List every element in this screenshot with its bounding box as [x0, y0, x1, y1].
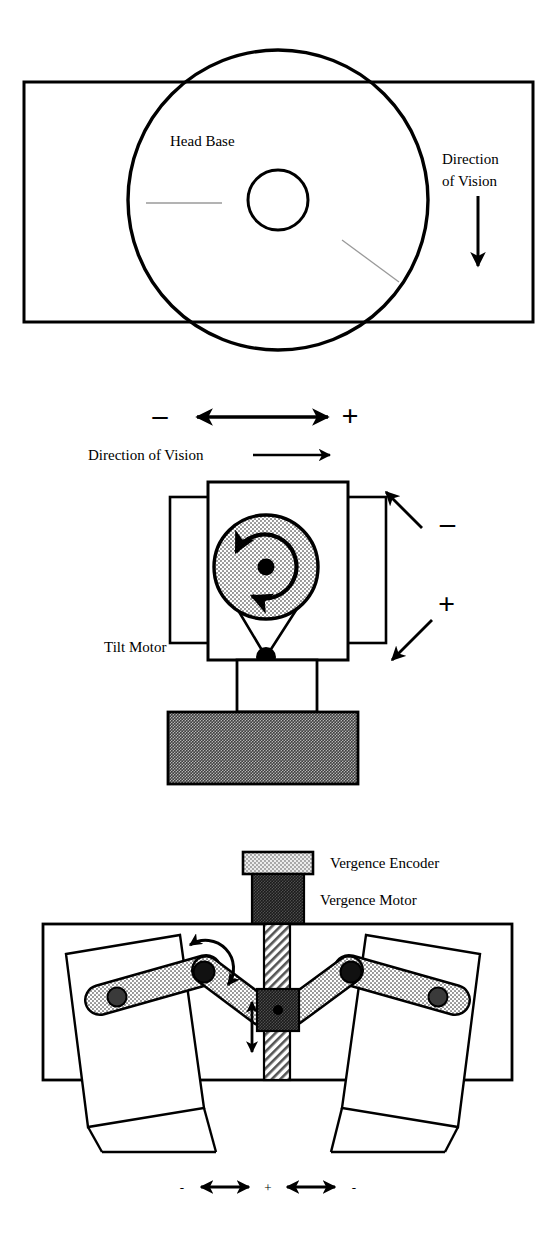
- vergence-pivot-left-outer: [108, 988, 127, 1007]
- camera-left-box: [170, 497, 211, 643]
- tilt-pulley-hub: [258, 559, 275, 576]
- head-base-hub-circle: [248, 170, 308, 230]
- label-vergence-encoder: Vergence Encoder: [330, 855, 439, 871]
- label-vergence-right-minus: -: [352, 1180, 356, 1195]
- vergence-motor-body: [252, 874, 304, 924]
- label-direction-of-vision-line1: Direction: [442, 151, 499, 167]
- neck-column: [237, 660, 317, 712]
- figure-root: Head Base Direction of Vision – + Direct…: [0, 0, 550, 1238]
- label-head-base: Head Base: [170, 133, 235, 149]
- label-direction-of-vision-side: Direction of Vision: [88, 447, 204, 463]
- label-vergence-motor: Vergence Motor: [320, 892, 417, 908]
- label-pan-plus: +: [341, 399, 358, 432]
- label-tilt-motor: Tilt Motor: [104, 639, 166, 655]
- label-tilt-minus: –: [439, 506, 456, 539]
- vergence-nut-center: [273, 1005, 283, 1015]
- label-pan-minus: –: [152, 398, 169, 431]
- label-direction-of-vision-line2: of Vision: [442, 173, 498, 189]
- panel-top-view: Head Base Direction of Vision: [24, 50, 533, 350]
- vergence-pivot-left-inner: [194, 962, 215, 983]
- label-vergence-left-minus: -: [180, 1180, 184, 1195]
- vergence-encoder-body: [243, 852, 313, 874]
- label-vergence-center-plus: +: [264, 1180, 271, 1195]
- camera-right-box: [345, 497, 386, 643]
- vergence-pivot-right-inner: [341, 962, 362, 983]
- vergence-pivot-right-outer: [429, 988, 448, 1007]
- label-tilt-plus: +: [438, 587, 455, 620]
- head-base-block: [168, 712, 358, 784]
- mechanism-diagram: Head Base Direction of Vision – + Direct…: [0, 0, 550, 1238]
